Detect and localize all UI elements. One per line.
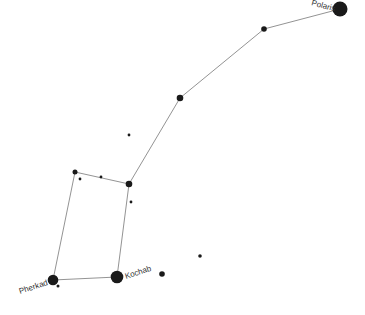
- constellation-line: [264, 9, 340, 29]
- label-polaris: Polaris: [310, 0, 336, 13]
- constellation-line: [75, 172, 129, 184]
- star: [159, 271, 165, 277]
- constellation-line: [53, 277, 117, 280]
- label-pherkad: Pherkad: [18, 278, 49, 296]
- constellation-line: [117, 184, 129, 277]
- star: [79, 178, 82, 181]
- constellation-lines: [53, 9, 340, 280]
- label-kochab: Kochab: [124, 264, 153, 281]
- star: [100, 176, 103, 179]
- stars: [48, 2, 348, 288]
- star: [126, 181, 133, 188]
- star: [198, 254, 202, 258]
- constellation-line: [53, 172, 75, 280]
- star: [128, 134, 131, 137]
- star: [261, 26, 267, 32]
- constellation-line: [180, 29, 264, 98]
- star: [57, 285, 60, 288]
- constellation-line: [129, 98, 180, 184]
- star-pherkad: [48, 275, 59, 286]
- star: [177, 95, 184, 102]
- star: [130, 201, 133, 204]
- star-kochab: [111, 271, 124, 284]
- star: [73, 170, 78, 175]
- constellation-diagram: Polaris Kochab Pherkad: [0, 0, 365, 315]
